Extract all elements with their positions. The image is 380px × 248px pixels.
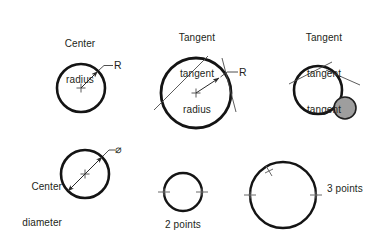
circle-construction-diagram: Center radius R Tangent tangent radius R…: [0, 0, 380, 248]
caption-two-points: 2 points: [153, 219, 213, 231]
group-center-diameter: [61, 150, 115, 198]
caption-line-3: tangent: [286, 104, 362, 116]
group-three-points: [244, 162, 322, 228]
caption-tangent-tangent-tangent: Tangent tangent tangent: [286, 8, 362, 140]
caption-line-1: Center: [44, 38, 116, 50]
caption-line-1: Center: [2, 181, 62, 193]
circle-three-points: [250, 162, 316, 228]
diameter-double-arrow: [68, 157, 102, 191]
leader-line-center-diameter: [103, 150, 115, 156]
caption-center-radius: Center radius: [44, 14, 116, 110]
caption-line-2: diameter: [2, 217, 62, 229]
group-two-points: [158, 173, 208, 211]
caption-three-points: 3 points: [327, 183, 379, 195]
caption-line-2: radius: [44, 74, 116, 86]
point-tick-marks-two-points: [158, 189, 208, 196]
caption-line-1: Tangent: [286, 32, 362, 44]
dimension-label-diameter: ⌀: [115, 143, 131, 155]
caption-line-1: Tangent: [160, 32, 234, 44]
caption-line-3: radius: [160, 104, 234, 116]
caption-line-2: tangent: [286, 68, 362, 80]
caption-center-diameter: Center diameter: [2, 157, 62, 248]
caption-tangent-tangent-radius: Tangent tangent radius: [160, 8, 234, 140]
dimension-label-r-tangent-tangent-radius: R: [239, 66, 255, 78]
dimension-label-r-center-radius: R: [114, 59, 130, 71]
point-tick-marks-three-points: [244, 166, 322, 199]
caption-line-2: tangent: [160, 68, 234, 80]
